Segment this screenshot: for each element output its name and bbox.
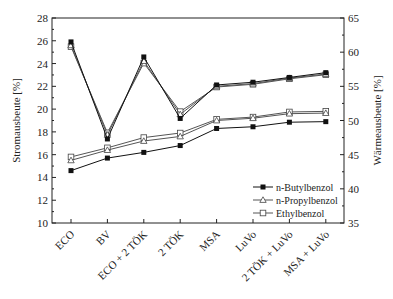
y-right-axis-label: Wärmeausbeute [%] [371,75,383,165]
y-right-tick-label: 55 [348,80,360,92]
y-tick-label: 18 [37,126,49,138]
x-tick-label: LuVo [233,228,259,254]
x-tick-label: ECO [52,228,76,252]
y-right-tick-label: 40 [348,183,360,195]
y-tick-label: 12 [37,194,48,206]
legend: n-Butylbenzoln-PropylbenzolEthylbenzol [253,182,338,219]
y-tick-label: 22 [37,80,48,92]
y-tick-label: 20 [37,103,49,115]
y-axis-label: Stromausbeute [%] [10,78,22,163]
y-right-tick-label: 50 [348,115,360,127]
y-tick-label: 14 [37,171,49,183]
legend-entry: n-Propylbenzol [276,195,338,206]
y-right-tick-label: 65 [348,12,360,24]
x-tick-label: MSA [197,228,222,253]
y-tick-label: 28 [37,12,49,24]
legend-entry: Ethylbenzol [276,208,325,219]
x-tick-label: 2 TÖK [155,228,185,258]
y-tick-label: 24 [37,58,49,70]
x-tick-label: BV [94,228,113,247]
y-tick-label: 10 [37,217,49,229]
y-right-tick-label: 35 [348,217,360,229]
y-right-tick-label: 45 [348,149,360,161]
y-tick-label: 16 [37,149,49,161]
y-tick-label: 26 [37,35,49,47]
y-right-tick-label: 60 [348,46,360,58]
legend-entry: n-Butylbenzol [276,182,333,193]
chart: 1012141618202224262835404550556065ECOBVE… [0,0,393,299]
